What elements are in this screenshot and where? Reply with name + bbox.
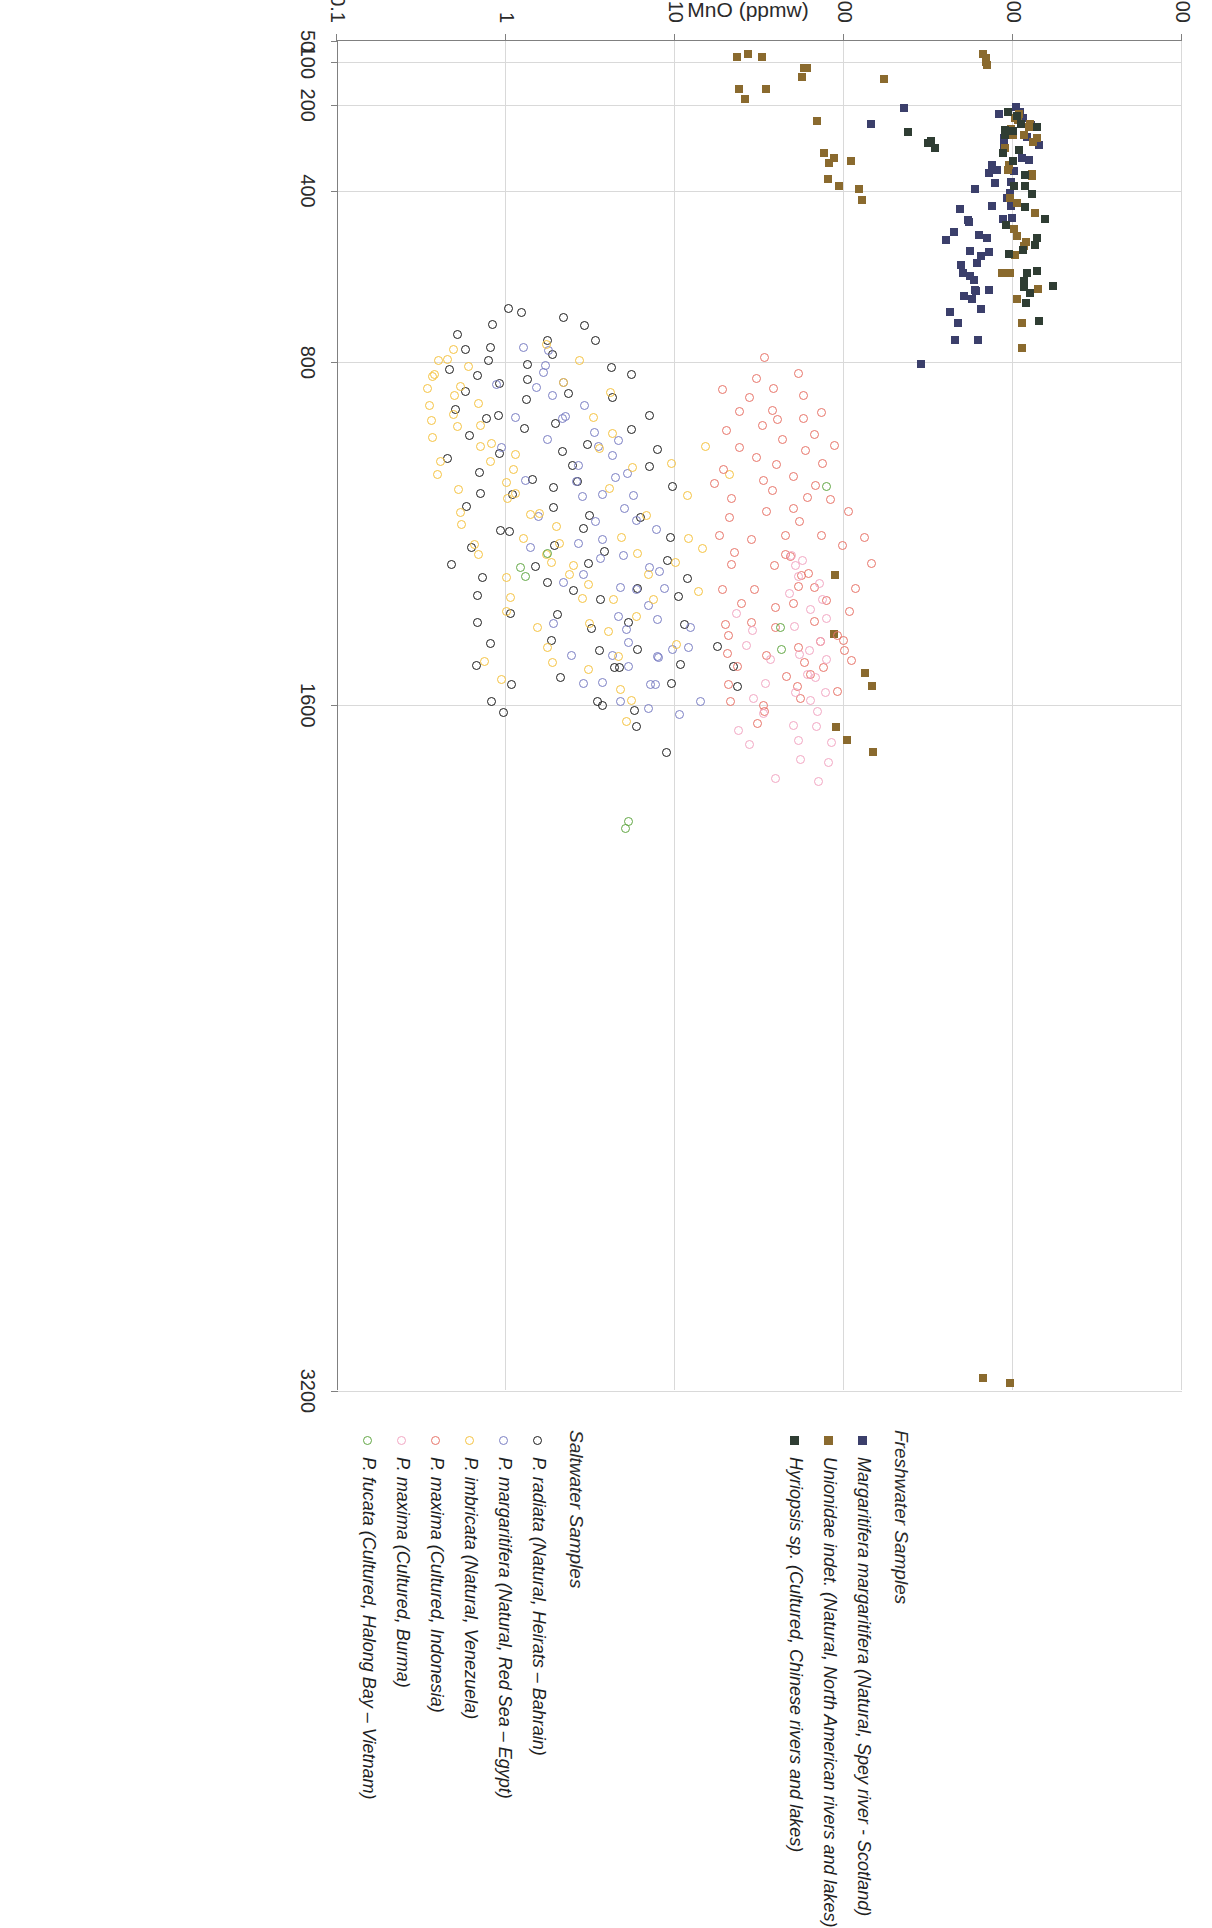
legend-item[interactable]: P. imbricata (Natural, Venezuela): [460, 1430, 481, 1800]
data-point: [532, 383, 541, 392]
data-point: [578, 492, 587, 501]
data-point: [627, 696, 636, 705]
data-point: [733, 53, 741, 61]
data-point: [686, 623, 695, 632]
legend-item[interactable]: Hyriopsis sp. (Cultured, Chinese rivers …: [785, 1430, 806, 1928]
data-point: [843, 736, 851, 744]
data-point: [735, 85, 743, 93]
data-point: [549, 619, 558, 628]
data-point: [674, 592, 683, 601]
data-point: [845, 607, 854, 616]
data-point: [516, 563, 525, 572]
legend-item[interactable]: P. fucata (Cultured, Halong Bay – Vietna…: [358, 1430, 379, 1800]
data-point: [497, 443, 506, 452]
data-point: [446, 365, 455, 374]
data-point: [752, 374, 761, 383]
data-point: [608, 451, 617, 460]
data-point: [478, 573, 487, 582]
data-point: [745, 393, 754, 402]
data-point: [847, 656, 856, 665]
legend-item-label: P. imbricata (Natural, Venezuela): [460, 1457, 481, 1719]
data-point: [675, 710, 684, 719]
legend-item[interactable]: P. margaritifera (Natural, Red Sea – Egy…: [494, 1430, 515, 1800]
data-point: [1017, 120, 1025, 128]
legend-item[interactable]: P. radiata (Natural, Heirats – Bahrain): [528, 1430, 549, 1800]
data-point: [614, 612, 623, 621]
data-point: [578, 594, 587, 603]
legend-item-label: P. fucata (Cultured, Halong Bay – Vietna…: [358, 1457, 379, 1800]
data-point: [701, 442, 710, 451]
data-point: [464, 362, 473, 371]
data-point: [950, 228, 958, 236]
data-point: [1041, 215, 1049, 223]
data-point: [715, 531, 724, 540]
data-point: [533, 623, 542, 632]
data-point: [667, 679, 676, 688]
data-point: [776, 623, 785, 632]
data-point: [801, 446, 810, 455]
x-tick: [331, 41, 338, 42]
legend-item-label: P. maxima (Cultured, Burma): [392, 1457, 413, 1688]
legend-item-label: Unionidae indet. (Natural, North America…: [819, 1457, 840, 1928]
data-point: [777, 645, 786, 654]
data-point: [868, 682, 876, 690]
legend-item[interactable]: Unionidae indet. (Natural, North America…: [819, 1430, 840, 1928]
data-point: [805, 646, 814, 655]
data-point: [1009, 157, 1017, 165]
data-point: [653, 615, 662, 624]
data-point: [624, 817, 633, 826]
y-tick-label: 10000: [1171, 0, 1194, 23]
data-point: [979, 50, 987, 58]
legend-item[interactable]: P. maxima (Cultured, Indonesia): [426, 1430, 447, 1800]
y-tick: [1012, 34, 1013, 41]
data-point: [718, 585, 727, 594]
data-point: [620, 504, 629, 513]
data-point: [735, 443, 744, 452]
data-point: [611, 473, 620, 482]
data-point: [548, 391, 557, 400]
data-point: [803, 493, 812, 502]
data-point: [954, 319, 962, 327]
data-point: [753, 719, 762, 728]
data-point: [633, 645, 642, 654]
data-point: [609, 595, 618, 604]
data-point: [835, 182, 843, 190]
data-point: [632, 585, 641, 594]
data-point: [642, 511, 651, 520]
filled-square-icon: [787, 1430, 805, 1450]
data-point: [645, 411, 654, 420]
data-point: [1009, 127, 1017, 135]
y-gridline: [843, 41, 844, 1390]
data-point: [617, 533, 626, 542]
data-point: [511, 489, 520, 498]
data-point: [721, 620, 730, 629]
data-point: [523, 375, 532, 384]
legend-item[interactable]: P. maxima (Cultured, Burma): [392, 1430, 413, 1800]
data-point: [1033, 123, 1041, 131]
data-point: [798, 73, 806, 81]
legend-item[interactable]: Margaritifera margaritifera (Natural, Sp…: [853, 1430, 874, 1928]
data-point: [724, 631, 733, 640]
data-point: [567, 651, 576, 660]
data-point: [957, 261, 965, 269]
data-point: [816, 637, 825, 646]
data-point: [927, 137, 935, 145]
data-point: [999, 149, 1007, 157]
data-point: [565, 570, 574, 579]
data-point: [719, 465, 728, 474]
data-point: [819, 663, 828, 672]
data-point: [475, 468, 484, 477]
data-point: [684, 534, 693, 543]
data-point: [496, 526, 505, 535]
data-point: [580, 401, 589, 410]
data-point: [449, 345, 458, 354]
data-point: [519, 534, 528, 543]
data-point: [838, 541, 847, 550]
data-point: [1018, 154, 1026, 162]
data-point: [583, 440, 592, 449]
data-point: [951, 336, 959, 344]
data-point: [778, 435, 787, 444]
data-point: [552, 522, 561, 531]
legend-saltwater: Saltwater Samples P. radiata (Natural, H…: [345, 1430, 587, 1800]
